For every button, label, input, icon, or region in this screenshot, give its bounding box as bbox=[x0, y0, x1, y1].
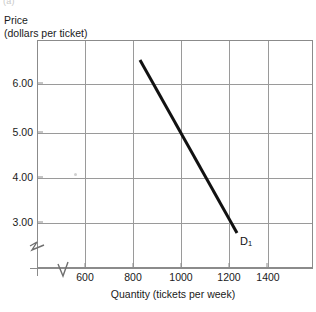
gridline-y-5 bbox=[38, 133, 312, 134]
y-tick-label-6: 6.00 bbox=[0, 78, 33, 89]
x-axis-title: Quantity (tickets per week) bbox=[0, 288, 316, 300]
demand-curve-label-subscript: 1 bbox=[248, 239, 252, 248]
y-tick-label-3: 3.00 bbox=[0, 217, 33, 228]
x-tick-label-1000: 1000 bbox=[161, 271, 201, 283]
gridline-x-600 bbox=[85, 41, 86, 267]
plot-area bbox=[37, 40, 313, 268]
gridline-y-6 bbox=[38, 84, 312, 85]
gridline-x-1200 bbox=[229, 41, 230, 267]
x-tick-label-1400: 1400 bbox=[248, 271, 288, 283]
gridline-x-800 bbox=[133, 41, 134, 267]
demand-curve-label-letter: D bbox=[240, 235, 248, 247]
gridline-y-3 bbox=[38, 223, 312, 224]
gridline-y-4 bbox=[38, 178, 312, 179]
y-tick-labels: 6.00 5.00 4.00 3.00 bbox=[0, 0, 33, 312]
x-tick-label-1200: 1200 bbox=[209, 271, 249, 283]
y-tick-label-5: 5.00 bbox=[0, 127, 33, 138]
gridline-x-1000 bbox=[181, 41, 182, 267]
gridline-x-1400 bbox=[268, 41, 269, 267]
scan-artifact-speck bbox=[74, 173, 77, 176]
x-tick-label-600: 600 bbox=[65, 271, 105, 283]
x-tick-label-800: 800 bbox=[113, 271, 153, 283]
demand-curve-figure: (a) Price (dollars per ticket) 6.00 5.00… bbox=[0, 0, 316, 312]
y-tick-label-4: 4.00 bbox=[0, 172, 33, 183]
demand-curve-label-d1: D1 bbox=[240, 236, 252, 247]
